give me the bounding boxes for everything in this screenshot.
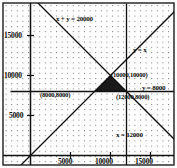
label-line-x-plus-y: x + y = 20000 [56,15,93,23]
x-tick-label-15000: 15000 [135,157,153,166]
x-tick-label-5000: 5000 [58,157,72,166]
label-point-top: (10000,10000) [111,71,147,78]
label-line-y-equals-8000: y = 8000 [142,84,165,92]
label-line-y-equals-x: y = x [133,46,147,54]
y-tick-label-5000: 5000 [9,111,23,120]
label-point-right: (12000,8000) [116,93,149,100]
y-tick-label-15000: 15000 [4,31,22,40]
label-point-left: (8000,8000) [40,91,70,98]
y-tick-label-10000: 10000 [4,71,22,80]
graph-figure: 15000 10000 5000 5000 10000 15000 x + y … [0,0,177,168]
label-line-x-equals-12000: x = 12000 [116,131,143,139]
x-tick-label-10000: 10000 [95,157,113,166]
